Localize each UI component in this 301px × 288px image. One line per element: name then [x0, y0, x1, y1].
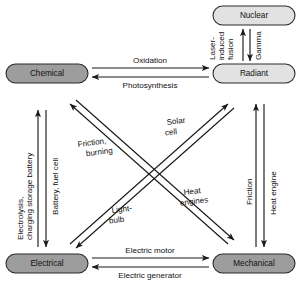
electrolysis-line-2: charging storage battery: [25, 152, 34, 240]
node-radiant-label: Radiant: [240, 69, 269, 78]
edge-label-electric-motor: Electric motor: [125, 246, 175, 255]
heat-engine-label: Heat engine: [269, 171, 278, 215]
edge-radiant-to-chemical: Photosynthesis: [92, 77, 209, 90]
node-mechanical-label: Mechanical: [233, 259, 275, 268]
edge-electrical-to-mechanical: Electric motor: [92, 246, 209, 258]
node-chemical[interactable]: Chemical: [6, 64, 88, 83]
edge-heat-engines-line: [76, 100, 234, 240]
edge-label-battery-fuel-cell: Battery, fuel cell: [51, 158, 60, 215]
node-mechanical[interactable]: Mechanical: [213, 254, 295, 273]
node-radiant[interactable]: Radiant: [213, 64, 295, 83]
edge-label-heat-engines: Heat engines: [178, 185, 208, 208]
solar-cell-line-2: cell: [164, 127, 177, 137]
edge-label-electric-generator: Electric generator: [118, 271, 182, 280]
friction-label: Friction: [245, 178, 254, 205]
edge-label-gamma: Gamma: [254, 31, 263, 60]
edge-label-solar-cell: Solar cell: [163, 116, 187, 138]
heat-engines-line-1: Heat: [183, 186, 202, 197]
lightbulb-line-1: Light-: [111, 204, 132, 215]
node-nuclear[interactable]: Nuclear: [213, 6, 295, 25]
edge-label-lightbulb: Light- bulb: [107, 204, 134, 226]
diagram-canvas: Nuclear Radiant Chemical Electrical Mech…: [0, 0, 301, 288]
laser-line-1: Laser-: [208, 37, 217, 60]
lightbulb-line-2: bulb: [108, 215, 125, 226]
edge-mechanical-to-electrical: Electric generator: [92, 267, 209, 280]
gamma-label: Gamma: [254, 31, 263, 60]
heat-engines-line-2: engines: [179, 195, 208, 207]
edge-chemical-to-radiant: Oxidation: [92, 56, 209, 68]
energy-conversion-diagram: Nuclear Radiant Chemical Electrical Mech…: [0, 0, 301, 288]
edge-label-friction: Friction: [245, 178, 254, 205]
node-electrical-label: Electrical: [30, 259, 63, 268]
laser-line-2: induced: [217, 32, 226, 60]
edge-radiant-to-electrical: [76, 108, 234, 248]
edge-chemical-to-mechanical: [76, 100, 234, 240]
node-electrical[interactable]: Electrical: [6, 254, 88, 273]
edge-label-friction-burning: Friction, burning: [77, 136, 113, 159]
edge-label-photosynthesis: Photosynthesis: [123, 81, 178, 90]
battery-fuel-cell-label: Battery, fuel cell: [51, 158, 60, 215]
edge-label-laser-induced-fusion: Laser- induced fusion: [208, 32, 235, 60]
edge-lightbulb-line: [76, 108, 234, 248]
friction-burning-line-2: burning: [85, 146, 113, 158]
solar-cell-line-1: Solar: [166, 116, 186, 127]
node-nuclear-label: Nuclear: [240, 11, 268, 20]
edge-label-oxidation: Oxidation: [133, 56, 167, 65]
edge-label-heat-engine: Heat engine: [269, 171, 278, 215]
edge-label-electrolysis: Electrolysis, charging storage battery: [16, 152, 34, 240]
laser-line-3: fusion: [226, 38, 235, 60]
node-chemical-label: Chemical: [30, 69, 64, 78]
electrolysis-line-1: Electrolysis,: [16, 197, 25, 240]
